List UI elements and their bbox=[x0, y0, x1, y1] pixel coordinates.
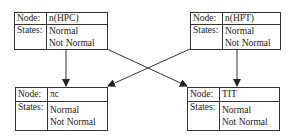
node-tit[interactable]: Node: TIT States: Normal Not Normal bbox=[187, 87, 280, 131]
state-normal: Normal bbox=[49, 25, 107, 37]
states-label: States: bbox=[15, 25, 47, 49]
node-label: Node: bbox=[15, 13, 47, 24]
state-normal: Normal bbox=[222, 104, 279, 116]
states-label: States: bbox=[188, 102, 220, 131]
node-pi-c[interactable]: Node: πc States: Normal Not Normal bbox=[15, 87, 108, 131]
node-n-hpt[interactable]: Node: n(HPT) States: Normal Not Normal bbox=[190, 12, 281, 50]
state-not-normal: Not Normal bbox=[50, 116, 107, 128]
node-name: TIT bbox=[220, 88, 279, 101]
state-normal: Normal bbox=[225, 25, 280, 37]
node-n-hpc[interactable]: Node: n(HPC) States: Normal Not Normal bbox=[14, 12, 108, 50]
state-not-normal: Not Normal bbox=[49, 37, 107, 49]
edge-nhpt-pic bbox=[108, 49, 190, 86]
states-label: States: bbox=[16, 102, 48, 131]
states-label: States: bbox=[191, 25, 223, 49]
state-not-normal: Not Normal bbox=[225, 37, 280, 49]
node-name: n(HPT) bbox=[223, 13, 280, 24]
node-label: Node: bbox=[188, 88, 220, 101]
node-name: n(HPC) bbox=[47, 13, 107, 24]
state-not-normal: Not Normal bbox=[222, 116, 279, 128]
state-normal: Normal bbox=[50, 104, 107, 116]
node-label: Node: bbox=[16, 88, 48, 101]
node-name: πc bbox=[48, 88, 107, 101]
edge-nhpc-tit bbox=[107, 49, 187, 86]
node-label: Node: bbox=[191, 13, 223, 24]
